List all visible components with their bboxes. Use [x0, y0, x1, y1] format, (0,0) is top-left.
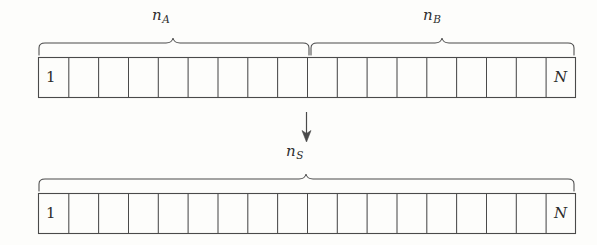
- brace-s-label-sub: S: [296, 149, 304, 161]
- brace-a-path: [39, 38, 309, 55]
- brace-s-label-base: n: [286, 142, 296, 160]
- brace-a-label-sub: A: [162, 13, 170, 25]
- brace-a-label-base: n: [152, 6, 162, 24]
- brace-b-label-base: n: [423, 6, 433, 24]
- upper-bar-end-label: N: [554, 68, 567, 86]
- partition-diagram: nA nB nS 1 N 1 N: [0, 0, 597, 245]
- upper-bar-ticks: [69, 58, 546, 97]
- brace-a-label: nA: [152, 6, 170, 25]
- down-arrow-shape: [302, 112, 311, 142]
- brace-b-label-sub: B: [433, 13, 441, 25]
- brace-s-path: [39, 174, 574, 191]
- lower-bar-ticks: [69, 194, 546, 233]
- upper-bar-start-label: 1: [46, 68, 56, 86]
- diagram-canvas: [0, 0, 597, 245]
- brace-s-label: nS: [286, 142, 304, 161]
- brace-b-path: [311, 38, 574, 55]
- brace-b-label: nB: [423, 6, 441, 25]
- lower-bar-start-label: 1: [46, 204, 56, 222]
- lower-bar-end-label: N: [554, 204, 567, 222]
